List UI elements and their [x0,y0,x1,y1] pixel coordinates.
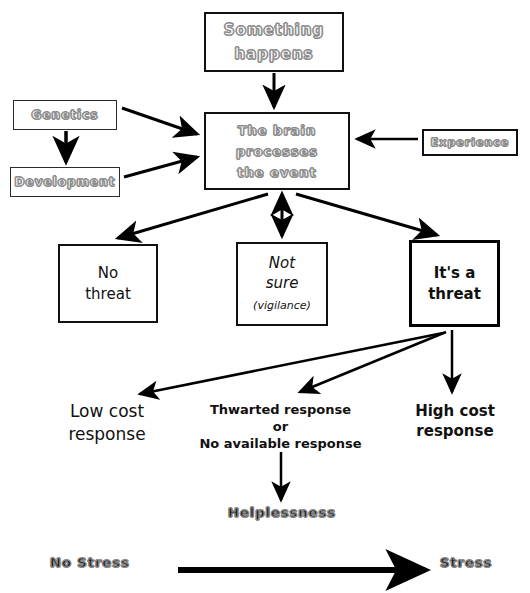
node-no-threat[interactable]: No threat [58,244,158,323]
arrow-brain-to-no-threat [118,194,268,238]
label-low-cost-response: Low cost response [32,400,182,446]
node-not-sure-line1: Not [269,253,295,273]
node-its-a-threat-line1: It's a [434,263,476,284]
node-its-a-threat-line2: threat [428,284,481,305]
node-not-sure-line2: sure [266,273,299,293]
node-something-happens[interactable]: Something happens [204,12,344,72]
node-something-happens-line2: happens [234,42,313,66]
label-thwarted-response: Thwarted response or No available respon… [193,401,368,452]
label-thwarted-line3: No available response [193,435,368,452]
node-genetics[interactable]: Genetics [13,100,117,130]
label-high-cost-line1: High cost [392,401,518,421]
node-something-happens-line1: Something [224,18,324,42]
node-brain-line1: The brain [238,120,317,141]
label-low-cost-line2: response [32,423,182,446]
arrow-genetics-to-brain [122,108,197,134]
arrow-threat-to-low-cost [140,333,443,394]
node-experience-label: Experience [431,136,509,149]
label-no-stress: No Stress [50,555,160,570]
node-not-sure[interactable]: Not sure (vigilance) [236,242,328,326]
node-brain-processes-event[interactable]: The brain processes the event [204,112,350,190]
flowchart-canvas: Something happens Genetics Development T… [0,0,530,593]
label-high-cost-line2: response [392,421,518,441]
node-development[interactable]: Development [10,167,120,197]
label-high-cost-response: High cost response [392,401,518,441]
label-low-cost-line1: Low cost [32,400,182,423]
node-no-threat-line1: No [98,263,118,284]
label-thwarted-line2: or [193,418,368,435]
node-brain-line2: processes [236,141,318,162]
node-not-sure-sublabel: (vigilance) [253,296,311,316]
arrow-brain-to-its-a-threat [296,194,437,235]
label-thwarted-line1: Thwarted response [193,401,368,418]
node-brain-line3: the event [237,162,316,183]
node-genetics-label: Genetics [32,108,99,122]
node-no-threat-line2: threat [85,284,131,305]
label-stress: Stress [440,555,520,570]
node-its-a-threat[interactable]: It's a threat [409,240,500,327]
arrow-development-to-brain [124,157,197,177]
arrow-threat-to-thwarted [300,332,446,392]
node-experience[interactable]: Experience [422,129,518,156]
label-helplessness: Helplessness [212,505,352,520]
node-development-label: Development [15,175,116,189]
